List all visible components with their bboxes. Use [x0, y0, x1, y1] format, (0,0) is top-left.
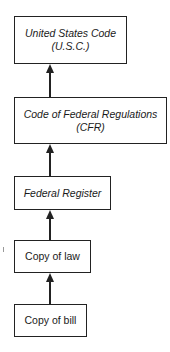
node-label: Copy of bill — [25, 314, 77, 327]
stray-mark — [3, 247, 4, 252]
node-label: Copy of law — [25, 250, 80, 263]
arrow-law-to-fr — [49, 218, 51, 240]
arrow-bill-to-law — [49, 281, 51, 304]
node-federal-register: Federal Register — [14, 176, 111, 210]
node-label: Federal Register — [24, 187, 102, 200]
arrow-fr-to-cfr — [49, 152, 51, 176]
arrowhead-icon — [46, 144, 54, 153]
node-sublabel: (U.S.C.) — [25, 40, 116, 53]
arrowhead-icon — [46, 273, 54, 282]
node-united-states-code: United States Code (U.S.C.) — [14, 16, 127, 64]
arrowhead-icon — [46, 210, 54, 219]
node-copy-of-bill: Copy of bill — [14, 304, 87, 337]
node-label: Code of Federal Regulations — [24, 108, 158, 121]
node-code-of-federal-regulations: Code of Federal Regulations (CFR) — [14, 97, 167, 144]
node-sublabel: (CFR) — [24, 121, 158, 134]
node-copy-of-law: Copy of law — [14, 240, 91, 273]
arrowhead-icon — [46, 64, 54, 73]
node-label: United States Code — [25, 27, 116, 40]
arrow-cfr-to-usc — [49, 72, 51, 97]
